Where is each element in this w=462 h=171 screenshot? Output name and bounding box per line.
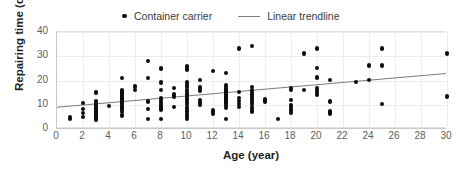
gridline-vertical: [135, 32, 136, 127]
data-point: [146, 99, 150, 103]
chart-legend: Container carrier Linear trendline: [0, 6, 462, 26]
data-point: [107, 104, 111, 108]
x-tick-label: 12: [206, 131, 217, 141]
data-point: [354, 80, 358, 84]
data-point: [237, 46, 241, 50]
data-point: [172, 105, 176, 109]
data-point: [146, 59, 150, 63]
x-axis-tick-labels: 024681012141618202224262830: [0, 131, 462, 147]
data-point: [81, 111, 85, 115]
data-point: [367, 78, 371, 82]
gridline-vertical: [265, 32, 266, 127]
y-tick-label: 10: [37, 99, 48, 109]
data-point: [94, 99, 98, 103]
x-tick-label: 18: [284, 131, 295, 141]
x-tick-label: 24: [362, 131, 373, 141]
data-point: [302, 51, 306, 55]
data-point: [81, 107, 85, 111]
data-point: [263, 97, 267, 101]
data-point: [159, 80, 163, 84]
x-tick-label: 30: [440, 131, 451, 141]
gridline-vertical: [343, 32, 344, 127]
data-point: [289, 98, 293, 102]
x-axis-line: [56, 128, 446, 129]
x-tick-label: 2: [79, 131, 85, 141]
data-point: [146, 117, 150, 121]
data-point: [198, 78, 202, 82]
data-point: [367, 63, 371, 67]
gridline-horizontal: [57, 56, 446, 57]
data-point: [328, 109, 332, 113]
x-tick-label: 22: [336, 131, 347, 141]
data-point: [224, 71, 228, 75]
data-point: [380, 46, 384, 50]
legend-dot-marker-icon: [122, 14, 127, 19]
legend-line-marker-icon: [238, 16, 260, 17]
y-tick-label: 40: [37, 26, 48, 36]
gridline-horizontal: [57, 81, 446, 82]
data-point: [159, 117, 163, 121]
y-axis-line: [56, 31, 57, 128]
y-axis-title: Repairing time (day): [13, 0, 25, 91]
data-point: [445, 51, 449, 55]
x-tick-label: 28: [414, 131, 425, 141]
data-point: [185, 80, 189, 84]
gridline-vertical: [109, 32, 110, 127]
data-point: [250, 44, 254, 48]
data-point: [133, 88, 137, 92]
data-point: [328, 78, 332, 82]
x-tick-label: 10: [180, 131, 191, 141]
data-point: [81, 115, 85, 119]
data-point: [172, 86, 176, 90]
data-point: [94, 90, 98, 94]
x-tick-label: 26: [388, 131, 399, 141]
data-point: [302, 88, 306, 92]
gridline-vertical: [447, 32, 448, 127]
x-tick-label: 20: [310, 131, 321, 141]
x-tick-label: 16: [258, 131, 269, 141]
legend-label-container-carrier: Container carrier: [134, 11, 212, 22]
data-point: [120, 88, 124, 92]
data-point: [315, 75, 319, 79]
gridline-vertical: [421, 32, 422, 127]
gridline-vertical: [395, 32, 396, 127]
data-point: [172, 92, 176, 96]
plot-area: [56, 31, 446, 128]
x-tick-label: 6: [131, 131, 137, 141]
data-point: [380, 63, 384, 67]
y-tick-label: 30: [37, 50, 48, 60]
data-point: [237, 90, 241, 94]
data-point: [146, 107, 150, 111]
data-point: [276, 117, 280, 121]
x-tick-label: 0: [53, 131, 59, 141]
scatter-chart: Container carrier Linear trendline 01020…: [0, 0, 462, 171]
legend-item-container-carrier: Container carrier: [122, 11, 212, 22]
data-point: [159, 66, 163, 70]
data-point: [211, 69, 215, 73]
x-axis-title: Age (year): [56, 149, 446, 161]
x-tick-label: 4: [105, 131, 111, 141]
data-point: [185, 64, 189, 68]
gridline-horizontal: [57, 32, 446, 33]
data-point: [159, 88, 163, 92]
data-point: [315, 66, 319, 70]
data-point: [133, 84, 137, 88]
data-point: [224, 117, 228, 121]
legend-item-linear-trendline: Linear trendline: [238, 11, 339, 22]
data-point: [315, 46, 319, 50]
legend-label-linear-trendline: Linear trendline: [267, 11, 339, 22]
y-tick-label: 20: [37, 75, 48, 85]
data-point: [445, 94, 449, 98]
x-tick-label: 14: [232, 131, 243, 141]
data-point: [328, 99, 332, 103]
data-point: [211, 108, 215, 112]
x-tick-label: 8: [157, 131, 163, 141]
